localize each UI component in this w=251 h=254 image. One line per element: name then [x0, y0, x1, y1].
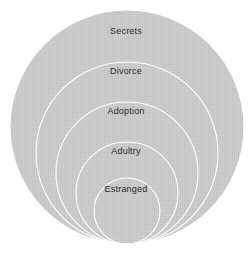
circle-secrets [10, 10, 244, 244]
nested-circles-diagram: Secrets Divorce Adoption Adultry Estrang… [0, 0, 251, 254]
circles-canvas [0, 0, 251, 254]
